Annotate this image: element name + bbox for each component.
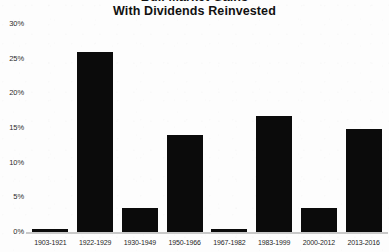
x-tick-label: 1930-1949 xyxy=(118,239,163,247)
bar-series xyxy=(0,0,389,232)
x-tick-label: 1903-1921 xyxy=(28,239,73,247)
x-tick-label: 2013-2016 xyxy=(341,239,386,247)
chart-title: Bull Market Gains With Dividends Reinves… xyxy=(0,0,389,18)
x-tick-label: 1983-1999 xyxy=(252,239,297,247)
x-tick-label: 2000-2012 xyxy=(297,239,342,247)
plot-area: 0%5%10%15%20%25%30% 1903-19211922-192919… xyxy=(0,0,389,252)
bar xyxy=(301,208,337,232)
bar xyxy=(122,208,158,232)
bar xyxy=(346,129,382,232)
chart-title-line-2: With Dividends Reinvested xyxy=(0,5,389,19)
x-tick-label: 1967-1982 xyxy=(207,239,252,247)
x-tick-label: 1950-1966 xyxy=(162,239,207,247)
x-tick-label: 1922-1929 xyxy=(73,239,118,247)
chart-page: Bull Market Gains With Dividends Reinves… xyxy=(0,0,389,252)
bar xyxy=(256,116,292,232)
x-axis-baseline xyxy=(26,232,388,234)
bar xyxy=(77,52,113,232)
bar xyxy=(167,135,203,232)
